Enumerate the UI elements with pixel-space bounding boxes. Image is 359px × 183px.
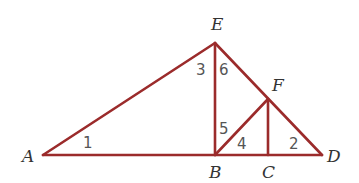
point-label-C: C <box>262 162 275 182</box>
geometry-diagram: A E F B C D 1 3 6 5 4 2 <box>0 0 359 183</box>
point-label-D: D <box>326 146 341 166</box>
point-label-A: A <box>20 146 34 166</box>
angle-label-1: 1 <box>83 134 93 152</box>
angle-label-4: 4 <box>237 135 247 153</box>
segment-AE <box>43 43 215 155</box>
point-label-E: E <box>210 14 224 34</box>
angle-label-6: 6 <box>219 61 229 79</box>
angle-label-3: 3 <box>196 61 206 79</box>
angle-label-5: 5 <box>219 120 229 138</box>
angle-label-2: 2 <box>289 135 299 153</box>
point-label-F: F <box>271 75 285 95</box>
point-label-B: B <box>208 162 222 182</box>
